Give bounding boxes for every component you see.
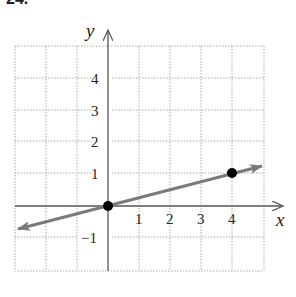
x-tick-label: 3: [197, 211, 205, 227]
coordinate-plane: y x 4 3 2 1 −1 1 2 3 4: [0, 0, 296, 297]
grid: [15, 46, 264, 271]
y-tick-label: 2: [91, 134, 99, 150]
x-tick-label: 1: [135, 211, 143, 227]
y-tick-label: 3: [91, 103, 99, 119]
point-origin: [103, 201, 113, 211]
x-tick-label: 2: [166, 211, 174, 227]
x-axis-label: x: [275, 209, 285, 230]
y-tick-label: 1: [91, 166, 99, 182]
y-tick-label: 4: [91, 71, 99, 87]
x-tick-label: 4: [228, 211, 236, 227]
y-tick-label: −1: [81, 230, 97, 246]
y-axis-label: y: [84, 20, 95, 41]
point-4-1: [227, 168, 237, 178]
